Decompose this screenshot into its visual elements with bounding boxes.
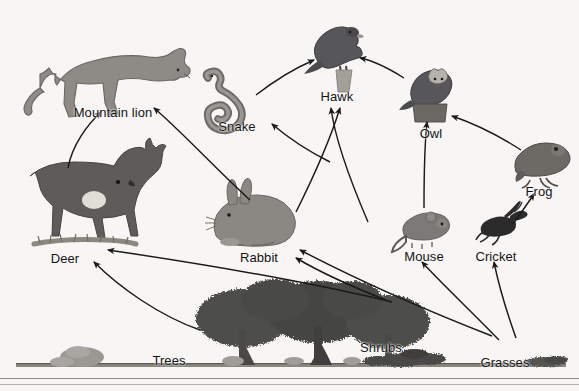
arrow-frog-to-owl <box>452 116 521 150</box>
arrow-grasses-to-cricket <box>494 262 516 338</box>
arrow-snake-to-hawk <box>256 60 314 95</box>
frog-art <box>515 143 570 188</box>
arrow-grasses-to-mouse <box>422 262 499 340</box>
label-frog: Frog <box>525 184 552 199</box>
owl-art <box>399 69 452 122</box>
label-grasses: Grasses <box>480 355 529 370</box>
bottom-rule-upper <box>0 378 579 379</box>
arrow-owl-to-hawk <box>360 58 404 78</box>
mouse-art <box>392 212 450 252</box>
label-rabbit: Rabbit <box>240 250 278 265</box>
label-cricket: Cricket <box>475 249 516 264</box>
diagram-canvas <box>0 0 579 391</box>
arrow-deer-to-mountain-lion <box>68 112 101 168</box>
label-mountain-lion: Mountain lion <box>74 105 153 120</box>
label-deer: Deer <box>51 251 80 266</box>
label-trees: Trees <box>152 353 185 368</box>
label-owl: Owl <box>420 126 443 141</box>
bottom-rule-lower <box>0 384 579 385</box>
hawk-art <box>304 27 364 92</box>
label-mouse: Mouse <box>404 249 444 264</box>
label-shrubs: Shrubs <box>360 340 402 355</box>
deer-art <box>30 138 166 244</box>
arrow-trees-to-deer <box>94 262 200 330</box>
arrow-rabbit-to-hawk <box>331 108 368 222</box>
food-web-diagram: Mountain lionSnakeHawkOwlFrogDeerRabbitM… <box>0 0 579 391</box>
cricket-art <box>476 201 528 245</box>
label-hawk: Hawk <box>321 89 354 104</box>
label-snake: Snake <box>218 119 255 134</box>
rabbit-art <box>205 178 295 246</box>
